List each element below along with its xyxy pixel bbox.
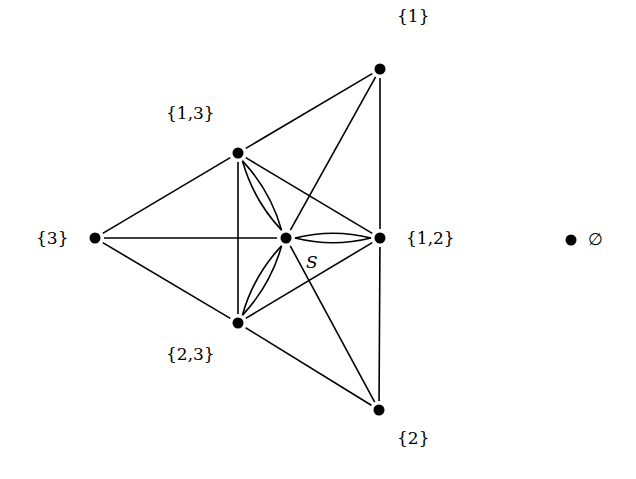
node-label-n12: {1,2} (406, 230, 455, 247)
edge-n3-n23 (103, 243, 231, 319)
node-n23 (233, 318, 244, 329)
double-edge-S-n12 (295, 238, 371, 243)
edge-n23-n2 (246, 328, 372, 406)
edge-n1-S (290, 77, 375, 230)
node-label-empty: ∅ (588, 231, 603, 248)
double-edge-S-n12 (295, 233, 371, 238)
node-n13 (233, 148, 244, 159)
edge-n1-n13 (246, 74, 373, 149)
node-label-n13: {1,3} (166, 105, 215, 122)
node-label-S: S (306, 254, 318, 271)
edge-S-n2 (290, 246, 374, 402)
double-edge-S-n23 (242, 246, 281, 315)
node-label-n3: {3} (36, 230, 68, 247)
double-edge-S-n23 (242, 246, 281, 315)
double-edge-S-n13 (242, 161, 281, 230)
node-n1 (375, 64, 386, 75)
node-label-n1: {1} (397, 8, 429, 25)
edge-n13-n3 (103, 158, 231, 234)
hypergraph-diagram (0, 0, 636, 479)
node-label-n2: {2} (397, 430, 429, 447)
node-n2 (374, 405, 385, 416)
edge-n13-n12 (246, 158, 373, 234)
node-label-n23: {2,3} (166, 346, 215, 363)
node-n3 (90, 233, 101, 244)
node-S (281, 233, 292, 244)
edge-n12-n2 (379, 247, 380, 401)
double-edge-S-n13 (242, 161, 281, 230)
node-empty (566, 235, 577, 246)
node-n12 (375, 233, 386, 244)
